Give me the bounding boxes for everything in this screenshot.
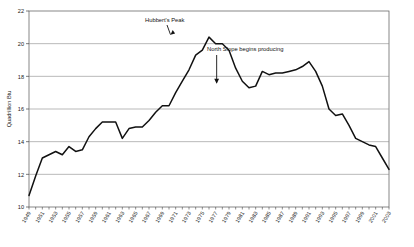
x-tick-label: 1985 [261, 210, 272, 223]
x-tick-label: 1997 [341, 210, 352, 223]
x-tick-label: 1983 [247, 210, 258, 223]
x-tick-label: 1969 [154, 210, 165, 223]
y-tick-label: 18 [18, 74, 24, 80]
x-tick-label: 1973 [181, 210, 192, 223]
line-chart: 10121416182022Quadrillion Btu19491951195… [0, 0, 414, 247]
x-tick-label: 1965 [127, 210, 138, 223]
y-tick-label: 14 [18, 139, 24, 145]
y-axis-title: Quadrillion Btu [6, 91, 12, 128]
x-tick-label: 1995 [327, 210, 338, 223]
annotation-label-hubberts-peak: Hubbert's Peak [145, 17, 185, 23]
x-tick-label: 2001 [367, 210, 378, 223]
x-tick-label: 1949 [21, 210, 32, 223]
x-tick-label: 1989 [287, 210, 298, 223]
x-tick-label: 1963 [114, 210, 125, 223]
x-tick-label: 1955 [61, 210, 72, 223]
x-tick-label: 1991 [301, 210, 312, 223]
x-tick-label: 1951 [34, 210, 45, 223]
x-tick-label: 1971 [167, 210, 178, 223]
x-tick-label: 1975 [194, 210, 205, 223]
x-tick-label: 1977 [207, 210, 218, 223]
y-tick-label: 10 [18, 204, 24, 210]
annotation-label-north-slope: North Slope begins producing [207, 46, 283, 52]
x-tick-label: 2003 [381, 210, 392, 223]
x-tick-label: 1959 [87, 210, 98, 223]
y-tick-label: 20 [18, 41, 24, 47]
x-tick-label: 1993 [314, 210, 325, 223]
x-tick-label: 1999 [354, 210, 365, 223]
x-tick-label: 1987 [274, 210, 285, 223]
chart-page: 10121416182022Quadrillion Btu19491951195… [0, 0, 414, 247]
y-tick-label: 12 [18, 172, 24, 178]
x-tick-label: 1953 [47, 210, 58, 223]
y-tick-label: 22 [18, 8, 24, 14]
x-tick-label: 1957 [74, 210, 85, 223]
x-tick-label: 1981 [234, 210, 245, 223]
x-tick-label: 1961 [101, 210, 112, 223]
y-tick-label: 16 [18, 106, 24, 112]
x-tick-label: 1979 [221, 210, 232, 223]
x-tick-label: 1967 [141, 210, 152, 223]
